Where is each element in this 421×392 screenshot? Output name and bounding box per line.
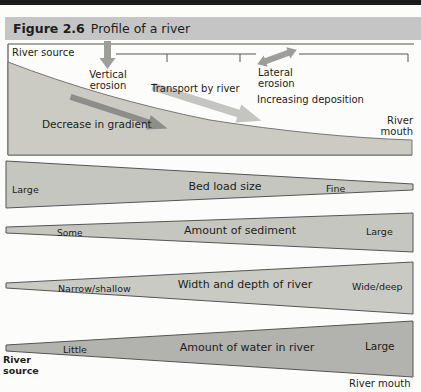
river-source-bottom-label: River source: [3, 355, 47, 376]
width-depth-left-label: Narrow/shallow: [58, 284, 131, 295]
width-depth-right-label: Wide/deep: [352, 282, 403, 293]
lateral-erosion-arrow-icon: [255, 44, 299, 70]
bed-load-title: Bed load size: [160, 182, 290, 193]
water-title: Amount of water in river: [177, 343, 317, 354]
river-mouth-bottom-label: River mouth: [349, 379, 411, 390]
sediment-title: Amount of sediment: [175, 226, 305, 237]
river-profile-diagram: [0, 0, 421, 392]
gradient-label: Decrease in gradient: [42, 119, 152, 130]
transport-label: Transport by river: [151, 84, 240, 95]
water-right-label: Large: [365, 341, 395, 352]
river-source-top-label: River source: [12, 48, 74, 59]
deposition-label: Increasing deposition: [257, 95, 364, 106]
bed-load-right-label: Fine: [326, 184, 345, 195]
water-left-label: Little: [63, 345, 87, 356]
bed-load-left-label: Large: [12, 185, 39, 196]
lateral-erosion-label: Lateral erosion: [258, 68, 308, 89]
width-depth-title: Width and depth of river: [175, 280, 315, 291]
sediment-left-label: Some: [57, 228, 83, 239]
sediment-right-label: Large: [366, 227, 393, 238]
figure-page: Figure 2.6 Profile of a river: [0, 0, 421, 392]
vertical-erosion-label: Vertical erosion: [80, 70, 136, 91]
river-mouth-top-label: River mouth: [371, 116, 413, 137]
vertical-erosion-arrow-icon: [100, 41, 116, 69]
